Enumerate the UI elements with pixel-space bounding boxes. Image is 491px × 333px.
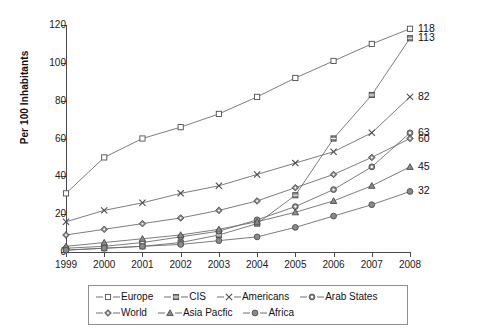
series-world	[63, 135, 414, 238]
data-point-filled-square	[255, 221, 260, 226]
legend-item-arab-states[interactable]: Arab States	[299, 291, 377, 303]
end-label-world: 60	[418, 133, 430, 144]
data-point-cross	[330, 149, 336, 155]
data-point-diamond	[292, 184, 299, 191]
chart-legend: EuropeCISAmericansArab StatesWorldAsia P…	[88, 285, 408, 325]
legend-label: Europe	[121, 291, 153, 303]
data-point-filled-square	[369, 92, 374, 97]
data-point-cross	[407, 94, 413, 100]
series-africa	[63, 189, 413, 253]
data-point-open-circle	[369, 164, 375, 170]
data-point-triangle	[292, 209, 298, 215]
data-point-diamond	[368, 154, 375, 161]
data-point-cross	[139, 200, 145, 206]
data-point-triangle	[407, 164, 413, 170]
series-americans	[63, 94, 413, 225]
legend-marker-open-circle	[299, 291, 325, 303]
data-point-diamond	[407, 135, 414, 142]
legend-label: Americans	[242, 291, 289, 303]
data-point-open-square	[102, 155, 107, 160]
data-point-filled-circle	[331, 213, 337, 219]
end-label-asia-pacfic: 45	[418, 161, 430, 172]
data-point-cross	[216, 183, 222, 189]
data-point-filled-circle	[178, 242, 184, 248]
data-point-filled-circle	[101, 245, 107, 251]
legend-marker-filled-circle	[242, 307, 268, 319]
data-point-filled-circle	[253, 310, 259, 316]
data-point-open-circle	[254, 217, 260, 223]
data-point-open-square	[105, 294, 110, 299]
data-point-filled-circle	[292, 225, 298, 231]
x-axis-line	[66, 252, 411, 253]
y-tick: 0	[0, 247, 66, 257]
data-point-triangle	[254, 219, 260, 225]
data-point-diamond	[139, 220, 146, 227]
data-point-cross	[101, 207, 107, 213]
data-point-triangle	[369, 183, 375, 189]
data-point-diamond	[254, 198, 261, 205]
data-point-diamond	[177, 215, 184, 222]
data-point-diamond	[101, 226, 108, 233]
data-point-filled-circle	[254, 234, 260, 240]
data-point-cross	[226, 294, 232, 300]
y-tick-label: 0	[38, 247, 66, 257]
data-point-open-square	[407, 26, 412, 31]
y-tick-label: 120	[38, 20, 66, 30]
data-point-open-square	[255, 94, 260, 99]
data-point-open-circle	[216, 228, 222, 234]
series-arab-states	[63, 130, 413, 251]
legend-label: Arab States	[325, 291, 377, 303]
data-point-triangle	[167, 310, 173, 316]
data-point-open-square	[216, 111, 221, 116]
data-point-triangle	[330, 198, 336, 204]
series-asia-pacfic	[63, 164, 413, 249]
data-point-triangle	[216, 226, 222, 232]
legend-marker-triangle	[157, 307, 183, 319]
legend-label: Africa	[268, 307, 294, 319]
y-tick-label: 80	[38, 96, 66, 106]
data-point-open-circle	[407, 130, 413, 136]
data-point-open-circle	[331, 187, 337, 193]
legend-item-world[interactable]: World	[95, 307, 147, 319]
y-tick-label: 40	[38, 171, 66, 181]
data-point-open-square	[293, 75, 298, 80]
data-point-filled-circle	[140, 243, 146, 249]
y-tick: 120	[0, 20, 66, 30]
end-label-africa: 32	[418, 185, 430, 196]
data-point-cross	[254, 171, 260, 177]
legend-row: WorldAsia PacficAfrica	[95, 305, 401, 321]
legend-row: EuropeCISAmericansArab States	[95, 289, 401, 305]
legend-marker-cross	[216, 291, 242, 303]
legend-label: Asia Pacfic	[183, 307, 232, 319]
legend-label: World	[121, 307, 147, 319]
data-point-open-circle	[309, 294, 315, 300]
data-point-filled-square	[102, 246, 107, 251]
legend-item-africa[interactable]: Africa	[242, 307, 294, 319]
data-point-cross	[178, 190, 184, 196]
data-point-diamond	[216, 207, 223, 214]
data-point-filled-circle	[407, 189, 413, 195]
series-europe	[63, 26, 412, 196]
data-point-triangle	[139, 236, 145, 242]
data-point-filled-circle	[216, 238, 222, 244]
legend-item-europe[interactable]: Europe	[95, 291, 153, 303]
data-point-diamond	[105, 310, 112, 317]
data-point-open-circle	[292, 204, 298, 210]
data-point-open-circle	[140, 240, 146, 246]
data-point-diamond	[330, 171, 337, 178]
y-tick-label: 60	[38, 134, 66, 144]
data-point-triangle	[177, 232, 183, 238]
y-tick-label: 100	[38, 58, 66, 68]
legend-item-americans[interactable]: Americans	[216, 291, 289, 303]
data-point-filled-square	[140, 244, 145, 249]
legend-marker-diamond	[95, 307, 121, 319]
data-point-cross	[369, 130, 375, 136]
data-point-filled-square	[216, 232, 221, 237]
legend-item-asia-pacfic[interactable]: Asia Pacfic	[157, 307, 232, 319]
chart-root: Per 100 Inhabitants 020406080100120 1999…	[0, 0, 491, 333]
data-point-open-square	[140, 136, 145, 141]
data-point-triangle	[101, 239, 107, 245]
end-label-cis: 113	[418, 32, 435, 43]
legend-item-cis[interactable]: CIS	[163, 291, 206, 303]
data-point-open-square	[369, 41, 374, 46]
